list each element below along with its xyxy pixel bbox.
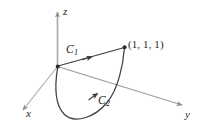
curve-c2-label: C2 — [98, 95, 110, 108]
curve-c1-arrow — [82, 57, 92, 60]
curve-c1-label: C1 — [66, 44, 78, 57]
z-axis-label: z — [63, 6, 67, 17]
y-axis-label: y — [185, 109, 190, 120]
curve-c2-label-subscript: 2 — [106, 99, 110, 108]
y-axis — [58, 67, 183, 106]
target-point-dot — [123, 45, 127, 49]
x-axis-label: x — [26, 108, 31, 119]
curve-c1-label-subscript: 1 — [74, 48, 78, 57]
curve-c2-label-base: C — [98, 94, 106, 106]
curve-c2-arrow — [89, 94, 98, 101]
x-axis — [23, 67, 58, 111]
origin-point-dot — [56, 65, 60, 69]
curve-c1-label-base: C — [66, 43, 74, 55]
target-point-label: (1, 1, 1) — [128, 39, 164, 50]
figure-container: z x y C1 C2 (1, 1, 1) — [0, 0, 201, 131]
